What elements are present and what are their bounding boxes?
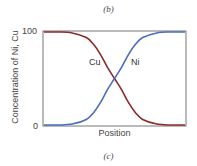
x-axis-label: Position [43, 128, 186, 138]
ni-label: Ni [131, 57, 140, 67]
ni-curve [44, 32, 185, 125]
cu-label: Cu [89, 57, 101, 67]
plot-area [0, 0, 197, 166]
caption-c: (c) [10, 151, 197, 161]
